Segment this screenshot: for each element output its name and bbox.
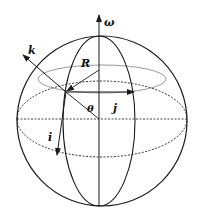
theta-line — [66, 92, 99, 119]
diagram-canvas: ω k R θ j i — [0, 0, 203, 221]
sphere-outline — [17, 36, 187, 206]
k-vector — [23, 55, 66, 92]
label-theta: θ — [87, 103, 94, 114]
sphere-diagram: ω k R θ j i — [0, 0, 203, 221]
label-k: k — [28, 44, 36, 57]
latitude-circle — [38, 65, 166, 93]
label-r: R — [80, 57, 90, 70]
label-i: i — [48, 131, 52, 144]
equator-back — [17, 81, 187, 119]
label-j: j — [111, 102, 117, 115]
equator-front — [17, 119, 187, 157]
label-omega: ω — [104, 16, 115, 29]
r-vector — [67, 70, 99, 91]
